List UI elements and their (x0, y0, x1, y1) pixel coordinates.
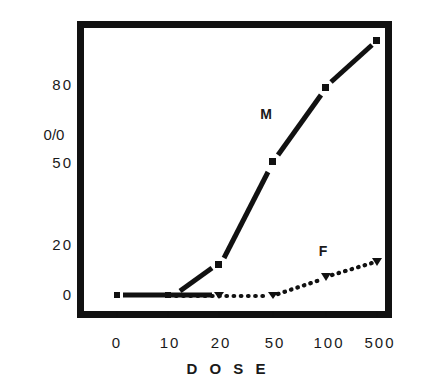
series-m-marker-20 (215, 261, 222, 268)
dose-response-chart: M F 80 50 20 0 0/0 0 10 20 50 100 500 D … (0, 0, 427, 385)
x-tick-label-500: 500 (364, 334, 395, 351)
chart-figure: M F 80 50 20 0 0/0 0 10 20 50 100 500 D … (0, 0, 427, 385)
y-tick-label-0: 0 (63, 286, 73, 303)
series-m-marker-10 (165, 292, 171, 298)
series-label-f: F (319, 243, 328, 259)
series-m-marker-100 (322, 84, 329, 91)
y-axis-title: 0/0 (44, 126, 65, 143)
chart-background (0, 0, 427, 385)
x-tick-label-10: 10 (160, 334, 181, 351)
series-m-marker-0 (114, 292, 120, 298)
y-tick-label-50: 50 (52, 154, 73, 171)
series-m-marker-50 (269, 158, 276, 165)
y-tick-label-80: 80 (52, 76, 73, 93)
x-tick-label-50: 50 (265, 334, 286, 351)
series-m-marker-500 (373, 37, 380, 44)
series-label-m: M (260, 106, 272, 122)
x-tick-label-0: 0 (112, 334, 122, 351)
x-tick-label-20: 20 (211, 334, 232, 351)
x-tick-label-100: 100 (313, 334, 344, 351)
y-tick-label-20: 20 (52, 236, 73, 253)
x-axis-title: D O S E (186, 360, 269, 377)
